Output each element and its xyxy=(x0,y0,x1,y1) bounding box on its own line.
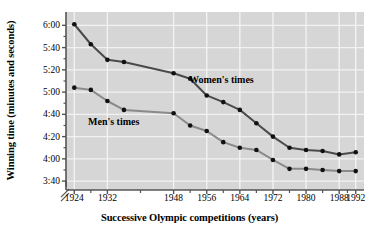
series-label-women: Women's times xyxy=(189,74,254,85)
olympic-winning-times-chart: Winning time (minutes and seconds) 6:005… xyxy=(0,0,379,239)
y-tick-label: 5:00 xyxy=(43,87,60,97)
y-tick-label: 5:40 xyxy=(43,43,60,53)
series-label-men: Men's times xyxy=(88,116,139,127)
y-axis-title: Winning time (minutes and seconds) xyxy=(0,0,22,200)
y-tick-label: 4:00 xyxy=(43,154,60,164)
x-tick-label: 1932 xyxy=(87,192,127,204)
series-lines xyxy=(74,24,355,171)
y-tick-label: 4:20 xyxy=(43,132,60,142)
x-axis-title: Successive Olympic competitions (years) xyxy=(0,212,379,223)
x-axis-tick-labels: 192419321948195619641972198019881992 xyxy=(0,192,379,208)
plot-svg xyxy=(66,12,364,190)
y-tick-label: 4:40 xyxy=(43,109,60,119)
y-tick-label: 5:20 xyxy=(43,65,60,75)
y-axis-title-text: Winning time (minutes and seconds) xyxy=(6,20,17,180)
x-tick-label: 1992 xyxy=(336,192,376,204)
y-axis-tick-labels: 6:005:405:205:004:404:204:003:40 xyxy=(20,0,60,200)
y-tick-label: 3:40 xyxy=(43,176,60,186)
vertical-gridlines xyxy=(74,12,355,190)
plot-area xyxy=(66,12,364,190)
y-tick-label: 6:00 xyxy=(43,20,60,30)
